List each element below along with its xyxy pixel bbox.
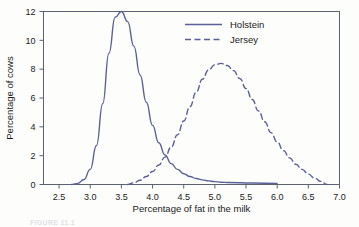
figure-container: 024681012 2.53.03.54.04.55.05.56.06.57.0… — [0, 0, 359, 227]
y-tick-label: 8 — [30, 64, 35, 74]
y-tick-label: 4 — [30, 122, 35, 132]
legend-label-jersey: Jersey — [230, 34, 258, 45]
figure-caption-partial: FIGURE 11.1 — [30, 219, 359, 227]
x-tick-label: 2.5 — [53, 192, 66, 202]
legend-label-holstein: Holstein — [230, 19, 264, 30]
x-tick-label: 3.0 — [84, 192, 97, 202]
x-tick-label: 7.0 — [333, 192, 346, 202]
y-tick-label: 6 — [30, 93, 35, 103]
x-tick-label: 6.5 — [302, 192, 315, 202]
y-axis-title: Percentage of cows — [4, 56, 15, 140]
x-tick-label: 4.0 — [146, 192, 159, 202]
x-tick-label: 4.5 — [177, 192, 190, 202]
x-axis-title: Percentage of fat in the milk — [133, 203, 251, 214]
y-tick-label: 2 — [30, 151, 35, 161]
x-tick-label: 5.5 — [240, 192, 253, 202]
y-tick-label: 10 — [25, 36, 35, 46]
y-tick-label: 12 — [25, 7, 35, 17]
x-tick-label: 6.0 — [271, 192, 284, 202]
y-tick-label: 0 — [30, 180, 35, 190]
x-tick-label: 5.0 — [209, 192, 222, 202]
x-tick-label: 3.5 — [115, 192, 128, 202]
distribution-chart: 024681012 2.53.03.54.04.55.05.56.06.57.0… — [0, 0, 359, 227]
